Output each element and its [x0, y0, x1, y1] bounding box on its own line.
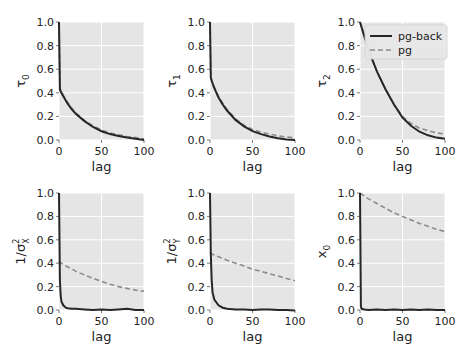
y-tick-label: 1.0 [37, 187, 55, 200]
y-axis-ticks: 0.00.20.40.60.81.0 [338, 16, 361, 147]
y-tick-label: 0.4 [37, 87, 55, 100]
subplot-4: 0.00.20.40.60.81.0050100lag1/σ2Y [163, 187, 306, 344]
x-tick-label: 0 [207, 145, 214, 158]
x-tick-label: 0 [56, 315, 63, 328]
y-tick-label: 0.4 [188, 257, 206, 270]
y-tick-label: 0.4 [37, 257, 55, 270]
x-tick-label: 100 [435, 145, 456, 158]
y-tick-label: 0.8 [188, 210, 206, 223]
x-axis-ticks: 050100 [207, 310, 306, 328]
y-axis-ticks: 0.00.20.40.60.81.0 [188, 16, 211, 147]
x-tick-label: 50 [246, 145, 260, 158]
y-axis-label: τ1 [164, 74, 182, 88]
y-tick-label: 0.2 [37, 281, 55, 294]
x-tick-label: 50 [396, 145, 410, 158]
x-axis-label: lag [243, 159, 263, 174]
subplot-0: 0.00.20.40.60.81.0050100lagτ0 [13, 16, 155, 174]
x-tick-label: 100 [285, 145, 306, 158]
y-axis-ticks: 0.00.20.40.60.81.0 [37, 187, 60, 317]
x-axis-ticks: 050100 [207, 140, 306, 158]
y-tick-label: 0.2 [37, 110, 55, 123]
x-tick-label: 50 [246, 315, 260, 328]
y-axis-label: 1/σ2Y [163, 239, 182, 265]
x-axis-ticks: 050100 [56, 310, 155, 328]
y-tick-label: 0.4 [188, 87, 206, 100]
y-tick-label: 0.6 [338, 63, 356, 76]
x-axis-ticks: 050100 [56, 140, 155, 158]
x-tick-label: 100 [134, 315, 155, 328]
y-tick-label: 0.4 [338, 257, 356, 270]
y-tick-label: 1.0 [188, 187, 206, 200]
x-axis-ticks: 050100 [357, 310, 456, 328]
y-tick-label: 1.0 [338, 187, 356, 200]
figure-canvas: 0.00.20.40.60.81.0050100lagτ00.00.20.40.… [0, 0, 469, 361]
y-tick-label: 0.8 [37, 40, 55, 53]
x-tick-label: 0 [207, 315, 214, 328]
y-tick-label: 0.6 [338, 234, 356, 247]
y-axis-label: 1/σ2X [12, 238, 31, 265]
y-tick-label: 0.0 [338, 304, 356, 317]
x-axis-label: lag [92, 159, 112, 174]
y-tick-label: 0.0 [37, 134, 55, 147]
x-axis-label: lag [92, 329, 112, 344]
legend-label: pg [398, 44, 412, 57]
y-tick-label: 1.0 [37, 16, 55, 29]
subplot-3: 0.00.20.40.60.81.0050100lag1/σ2X [12, 187, 155, 344]
y-tick-label: 0.6 [188, 234, 206, 247]
legend-label: pg-back [398, 30, 443, 43]
y-tick-label: 0.0 [188, 304, 206, 317]
y-tick-label: 0.6 [37, 234, 55, 247]
y-tick-label: 0.0 [188, 134, 206, 147]
y-tick-label: 0.2 [188, 281, 206, 294]
x-tick-label: 0 [357, 145, 364, 158]
x-tick-label: 50 [396, 315, 410, 328]
subplot-2: 0.00.20.40.60.81.0050100lagτ2pg-backpg [314, 16, 456, 174]
y-axis-ticks: 0.00.20.40.60.81.0 [338, 187, 361, 317]
y-tick-label: 0.2 [188, 110, 206, 123]
x-tick-label: 100 [435, 315, 456, 328]
x-axis-label: lag [393, 159, 413, 174]
y-tick-label: 0.2 [338, 281, 356, 294]
x-tick-label: 0 [56, 145, 63, 158]
y-axis-label: τ0 [13, 74, 31, 88]
y-axis-ticks: 0.00.20.40.60.81.0 [188, 187, 211, 317]
y-tick-label: 1.0 [338, 16, 356, 29]
y-tick-label: 0.6 [37, 63, 55, 76]
y-tick-label: 0.8 [338, 40, 356, 53]
x-tick-label: 0 [357, 315, 364, 328]
y-tick-label: 0.2 [338, 110, 356, 123]
y-tick-label: 0.0 [338, 134, 356, 147]
x-axis-label: lag [393, 329, 413, 344]
x-tick-label: 50 [95, 315, 109, 328]
x-axis-label: lag [243, 329, 263, 344]
y-tick-label: 0.4 [338, 87, 356, 100]
y-axis-ticks: 0.00.20.40.60.81.0 [37, 16, 60, 147]
legend: pg-backpg [365, 25, 447, 59]
y-tick-label: 1.0 [188, 16, 206, 29]
y-tick-label: 0.6 [188, 63, 206, 76]
y-tick-label: 0.8 [37, 210, 55, 223]
figure: 0.00.20.40.60.81.0050100lagτ00.00.20.40.… [0, 0, 469, 361]
x-axis-ticks: 050100 [357, 140, 456, 158]
subplot-5: 0.00.20.40.60.81.0050100lagx0 [314, 187, 456, 344]
y-tick-label: 0.8 [188, 40, 206, 53]
y-tick-label: 0.8 [338, 210, 356, 223]
x-tick-label: 100 [285, 315, 306, 328]
y-tick-label: 0.0 [37, 304, 55, 317]
x-tick-label: 100 [134, 145, 155, 158]
y-axis-label: x0 [314, 245, 332, 259]
x-tick-label: 50 [95, 145, 109, 158]
y-axis-label: τ2 [314, 74, 332, 88]
subplot-1: 0.00.20.40.60.81.0050100lagτ1 [164, 16, 306, 174]
